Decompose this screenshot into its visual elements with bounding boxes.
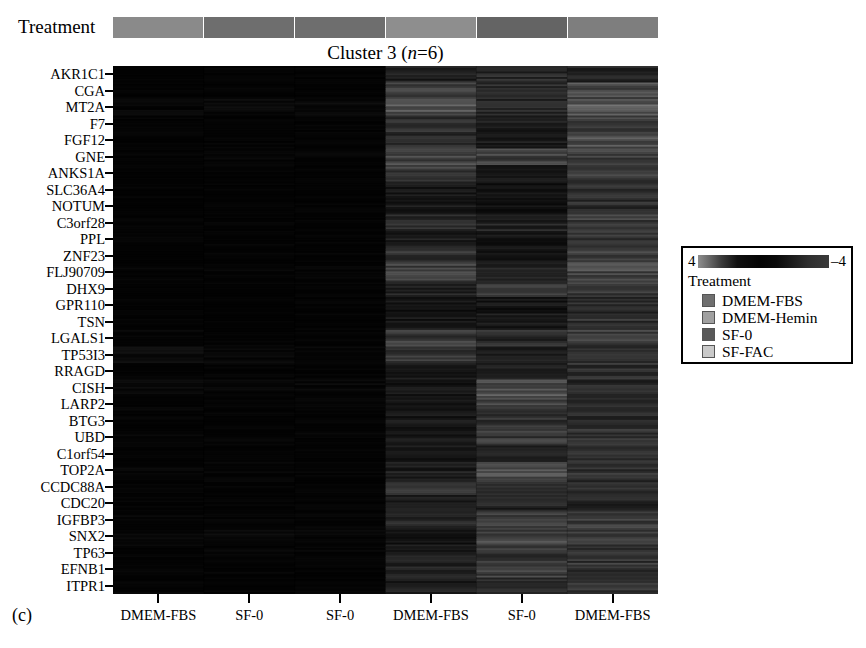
gene-label-dhx9: DHX9 xyxy=(66,282,105,296)
color-scale-row: 4 –4 xyxy=(688,252,846,270)
title-italic-n: n xyxy=(408,42,418,63)
column-tick xyxy=(157,594,159,603)
gene-label-lgals1: LGALS1 xyxy=(51,331,105,345)
legend-heading: Treatment xyxy=(688,272,846,290)
row-tick xyxy=(105,304,113,306)
scale-min-label: –4 xyxy=(831,253,846,269)
treatment-segment-2 xyxy=(295,17,386,38)
heatmap-plot xyxy=(113,66,658,594)
gene-label-igfbp3: IGFBP3 xyxy=(57,513,105,527)
treatment-segment-1 xyxy=(204,17,295,38)
row-tick xyxy=(105,106,113,108)
column-label-2: SF-0 xyxy=(326,606,354,624)
gene-label-top2a: TOP2A xyxy=(60,463,105,477)
row-tick xyxy=(105,420,113,422)
gene-label-tp63: TP63 xyxy=(74,546,105,560)
column-label-1: SF-0 xyxy=(235,606,263,624)
gene-label-cga: CGA xyxy=(74,84,105,98)
column-label-5: DMEM-FBS xyxy=(575,606,651,624)
legend-item-3: SF-FAC xyxy=(702,343,846,360)
gene-label-flj90709: FLJ90709 xyxy=(46,265,105,279)
gene-label-ccdc88a: CCDC88A xyxy=(41,480,105,494)
row-tick xyxy=(105,403,113,405)
row-tick xyxy=(105,519,113,521)
row-tick xyxy=(105,271,113,273)
gene-label-f7: F7 xyxy=(90,117,105,131)
gene-label-notum: NOTUM xyxy=(52,199,105,213)
gene-label-c1orf54: C1orf54 xyxy=(57,447,105,461)
colorbar xyxy=(698,255,830,268)
column-tick xyxy=(248,594,250,603)
legend-item-0: DMEM-FBS xyxy=(702,292,846,309)
title-prefix: Cluster 3 ( xyxy=(327,42,407,63)
legend-swatch-icon xyxy=(702,294,715,307)
row-tick xyxy=(105,568,113,570)
row-tick xyxy=(105,535,113,537)
gene-label-snx2: SNX2 xyxy=(69,529,105,543)
row-tick xyxy=(105,156,113,158)
gene-label-tsn: TSN xyxy=(78,315,105,329)
gene-label-itpr1: ITPR1 xyxy=(66,579,105,593)
column-label-4: SF-0 xyxy=(508,606,536,624)
gene-label-tp53i3: TP53I3 xyxy=(62,348,106,362)
gene-label-gpr110: GPR110 xyxy=(56,298,105,312)
legend-item-label: DMEM-Hemin xyxy=(722,309,818,326)
row-tick xyxy=(105,222,113,224)
gene-label-larp2: LARP2 xyxy=(61,397,105,411)
row-tick xyxy=(105,354,113,356)
legend-item-list: DMEM-FBSDMEM-HeminSF-0SF-FAC xyxy=(688,292,846,360)
title-suffix: =6) xyxy=(417,42,444,63)
row-tick xyxy=(105,288,113,290)
gene-row-labels: AKR1C1CGAMT2AF7FGF12GNEANKS1ASLC36A4NOTU… xyxy=(0,66,105,594)
legend-item-1: DMEM-Hemin xyxy=(702,309,846,326)
legend-swatch-icon xyxy=(702,311,715,324)
row-tick xyxy=(105,585,113,587)
column-tick xyxy=(521,594,523,603)
gene-label-btg3: BTG3 xyxy=(69,414,105,428)
column-tick xyxy=(430,594,432,603)
gene-label-rragd: RRAGD xyxy=(54,364,105,378)
row-tick xyxy=(105,73,113,75)
gene-label-cish: CISH xyxy=(72,381,105,395)
legend-item-label: DMEM-FBS xyxy=(722,292,803,309)
gene-label-anks1a: ANKS1A xyxy=(48,166,105,180)
gene-label-ppl: PPL xyxy=(80,232,105,246)
row-tick xyxy=(105,436,113,438)
legend-item-label: SF-0 xyxy=(722,326,752,343)
row-tick xyxy=(105,238,113,240)
treatment-segment-5 xyxy=(568,17,658,38)
column-tick xyxy=(612,594,614,603)
legend-swatch-icon xyxy=(702,345,715,358)
row-tick xyxy=(105,139,113,141)
gene-label-c3orf28: C3orf28 xyxy=(57,216,105,230)
gene-label-slc36a4: SLC36A4 xyxy=(46,183,105,197)
row-tick xyxy=(105,453,113,455)
row-tick xyxy=(105,172,113,174)
row-tick xyxy=(105,552,113,554)
legend-swatch-icon xyxy=(702,328,715,341)
row-tick xyxy=(105,337,113,339)
gene-label-ubd: UBD xyxy=(74,430,105,444)
row-tick xyxy=(105,469,113,471)
heatmap-canvas xyxy=(113,66,658,594)
row-tick-marks xyxy=(105,66,113,594)
column-tick xyxy=(339,594,341,603)
scale-max-label: 4 xyxy=(688,253,696,269)
gene-label-gne: GNE xyxy=(75,150,105,164)
gene-label-znf23: ZNF23 xyxy=(63,249,105,263)
row-tick xyxy=(105,205,113,207)
gene-label-cdc20: CDC20 xyxy=(61,496,105,510)
column-tick-marks xyxy=(113,594,658,603)
figure-panel-c: Treatment Cluster 3 (n=6) AKR1C1CGAMT2AF… xyxy=(0,0,866,648)
page-title: Cluster 3 (n=6) xyxy=(113,42,658,64)
panel-letter: (c) xyxy=(12,604,32,626)
treatment-segment-4 xyxy=(477,17,568,38)
column-label-3: DMEM-FBS xyxy=(393,606,469,624)
treatment-axis-label: Treatment xyxy=(18,16,95,38)
legend: 4 –4 Treatment DMEM-FBSDMEM-HeminSF-0SF-… xyxy=(681,246,853,364)
column-axis-labels: DMEM-FBSSF-0SF-0DMEM-FBSSF-0DMEM-FBS xyxy=(113,606,658,630)
treatment-segment-0 xyxy=(113,17,204,38)
row-tick xyxy=(105,502,113,504)
column-label-0: DMEM-FBS xyxy=(121,606,197,624)
treatment-strip xyxy=(113,17,658,38)
